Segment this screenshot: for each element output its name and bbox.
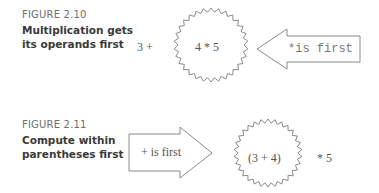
burst-text: (3 + 4) <box>248 151 281 166</box>
operand-text: * 5 <box>317 151 332 166</box>
burst-text: 4 * 5 <box>195 40 219 55</box>
arrow-text: *is first <box>288 42 353 56</box>
figure-label: FIGURE 2.11 <box>22 119 87 130</box>
figure-title-line1: Multiplication gets <box>22 23 133 37</box>
figure-title-line1: Compute within <box>22 133 116 147</box>
figure-title-line2: parentheses first <box>22 147 124 161</box>
figure-title-line2: its operands first <box>22 37 124 51</box>
figure-label: FIGURE 2.10 <box>22 9 87 20</box>
operand-text: 3 + <box>137 40 153 55</box>
arrow-text: + is first <box>141 145 181 160</box>
